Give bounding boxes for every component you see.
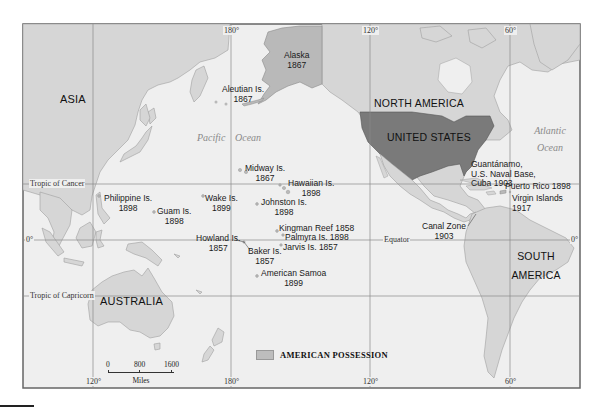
tropic-of-cancer-label: Tropic of Cancer [29, 179, 85, 188]
pacific-ocean-label-2: Ocean [235, 129, 261, 146]
lon-label-60w-top: 60° [504, 26, 517, 35]
lon-label-60w-bottom: 60° [504, 377, 517, 386]
possession-aleutian: Aleutian Is.1867 [222, 85, 264, 104]
zero-lat-right-label: 0° [570, 235, 579, 244]
map-legend: AMERICAN POSSESSION [256, 350, 388, 360]
asia-label: ASIA [60, 92, 86, 106]
lon-label-120w-bottom: 120° [362, 377, 379, 386]
possession-jarvis: Jarvis Is. 1857 [283, 243, 338, 253]
caption-rule [0, 405, 34, 407]
tropic-of-capricorn-label: Tropic of Capricorn [29, 291, 95, 300]
zero-lat-left-label: 0° [25, 235, 34, 244]
possession-guam: Guam Is.1898 [157, 207, 191, 226]
scale-tick-1600: 1600 [164, 360, 179, 369]
north-america-label: NORTH AMERICA [374, 96, 464, 110]
scale-unit: Miles [108, 376, 174, 385]
lon-label-180-top: 180° [223, 26, 240, 35]
possession-american-samoa: American Samoa1899 [261, 269, 326, 288]
australia-label: AUSTRALIA [100, 294, 163, 308]
equator-label: Equator [383, 235, 410, 244]
scale-tick-0: 0 [106, 360, 110, 369]
atlantic-ocean-label: Atlantic Ocean [525, 122, 575, 156]
possession-howland: Howland Is.1857 [196, 234, 240, 253]
possession-puerto-rico: Puerto Rico 1898 [505, 182, 571, 192]
lon-label-120w-top: 120° [362, 26, 379, 35]
possession-johnston: Johnston Is.1898 [261, 198, 307, 217]
possession-swatch [256, 350, 274, 360]
possession-alaska: Alaska1867 [284, 51, 310, 70]
lon-label-120e-bottom: 120° [85, 377, 102, 386]
possession-wake: Wake Is.1899 [205, 194, 238, 213]
possession-philippines: Philippine Is.1898 [104, 194, 152, 213]
lon-label-180-bottom: 180° [223, 377, 240, 386]
possession-virgin-islands: Virgin Islands1917 [512, 194, 563, 213]
possession-canal-zone: Canal Zone1903 [422, 222, 466, 241]
us-possessions-map: 180° 120° 60° 120° 180° 120° 60° Tropic … [0, 0, 602, 409]
possession-midway: Midway Is.1867 [245, 164, 285, 183]
south-america-label: SOUTH AMERICA [506, 247, 566, 285]
possession-baker: Baker Is.1857 [248, 247, 282, 266]
pacific-ocean-label-1: Pacific [197, 129, 225, 146]
united-states-label: UNITED STATES [387, 130, 471, 144]
possession-hawaii: Hawaiian Is.1898 [288, 179, 334, 198]
scale-tick-800: 800 [134, 360, 145, 369]
scale-bar: 0 800 1600 Miles [108, 360, 174, 385]
legend-label: AMERICAN POSSESSION [280, 350, 388, 360]
